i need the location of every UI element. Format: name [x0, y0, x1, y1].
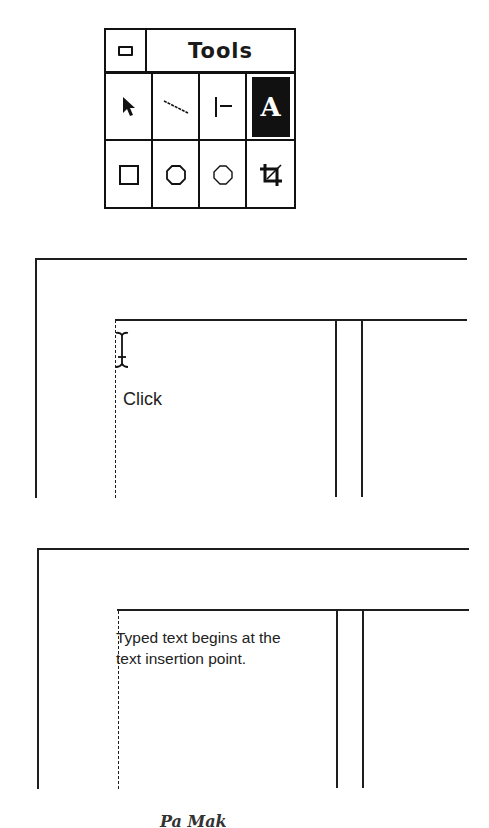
- typed-text-line-1: Typed text begins at the: [116, 627, 281, 648]
- column-divider-2: [362, 610, 364, 788]
- palette-title: Tools: [147, 30, 294, 71]
- column-guide-top: [115, 319, 467, 321]
- column-guide-top: [117, 609, 469, 611]
- oval-tool[interactable]: [200, 141, 247, 208]
- typed-text-line-2: text insertion point.: [116, 648, 246, 669]
- partial-caption: Pa Mak: [160, 812, 227, 828]
- perpendicular-line-icon: [211, 95, 235, 119]
- cropping-tool[interactable]: [247, 141, 294, 208]
- square-icon: [117, 163, 141, 187]
- outer-frame-top: [37, 548, 469, 550]
- column-divider-2: [361, 320, 363, 497]
- column-divider-1: [336, 610, 338, 788]
- outer-frame-top: [35, 258, 467, 260]
- text-A-icon: A: [260, 92, 280, 122]
- click-label: Click: [123, 389, 162, 410]
- tools-palette: Tools A: [104, 28, 296, 209]
- perpendicular-line-tool[interactable]: [200, 74, 247, 141]
- diagonal-line-icon: [161, 97, 191, 117]
- outer-frame-left: [35, 258, 37, 498]
- outer-frame-left: [37, 548, 39, 789]
- control-menu-box[interactable]: [106, 30, 147, 71]
- column-divider-1: [335, 320, 337, 497]
- arrow-pointer-icon: [121, 96, 137, 118]
- pointer-tool[interactable]: [106, 74, 153, 141]
- rectangle-tool[interactable]: [106, 141, 153, 208]
- rounded-square-icon: [164, 163, 188, 187]
- control-menu-icon: [118, 46, 133, 56]
- rounded-rectangle-tool[interactable]: [153, 141, 200, 208]
- diagonal-line-tool[interactable]: [153, 74, 200, 141]
- crop-icon: [258, 162, 284, 188]
- text-tool[interactable]: A: [247, 74, 294, 141]
- palette-title-bar[interactable]: Tools: [106, 30, 294, 74]
- circle-icon: [211, 163, 235, 187]
- i-beam-cursor-icon: [114, 330, 134, 370]
